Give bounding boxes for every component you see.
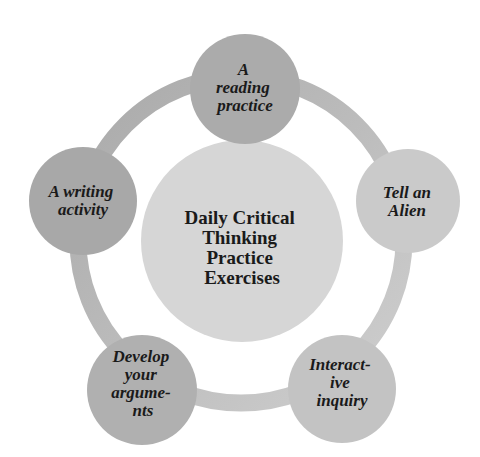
node-reading-practice: A reading practice (190, 34, 300, 144)
node-label-line: Tell an (383, 183, 431, 202)
center-label-line: Practice (206, 247, 272, 268)
node-label-line: nts (133, 401, 154, 420)
center-node: Daily Critical Thinking Practice Exercis… (141, 140, 343, 342)
node-label-line: your (123, 365, 158, 384)
center-label-line: Daily Critical (184, 207, 294, 228)
node-tell-an-alien: Tell an Alien (356, 149, 460, 253)
node-develop-your-arguments: Develop your argume- nts (87, 335, 197, 445)
node-label-line: reading (216, 78, 270, 97)
node-label-line: activity (58, 200, 108, 219)
node-label-line: argume- (111, 383, 171, 402)
node-label-line: Alien (387, 201, 426, 220)
node-label-line: inquiry (316, 391, 367, 410)
center-label-line: Exercises (204, 267, 280, 288)
node-writing-activity: A writing activity (29, 147, 137, 255)
node-label-line: Interact- (308, 355, 371, 374)
center-label-line: Thinking (202, 227, 277, 248)
node-label-line: practice (215, 96, 273, 115)
svg-text:A writing activity: A writing activity (48, 182, 118, 219)
node-label-line: A (237, 60, 249, 79)
node-label-line: Develop (112, 347, 170, 366)
node-label-line: A writing (48, 182, 114, 201)
cycle-diagram: Daily Critical Thinking Practice Exercis… (0, 0, 480, 457)
node-label-line: ive (330, 373, 350, 392)
node-interactive-inquiry: Interact- ive inquiry (288, 335, 396, 443)
